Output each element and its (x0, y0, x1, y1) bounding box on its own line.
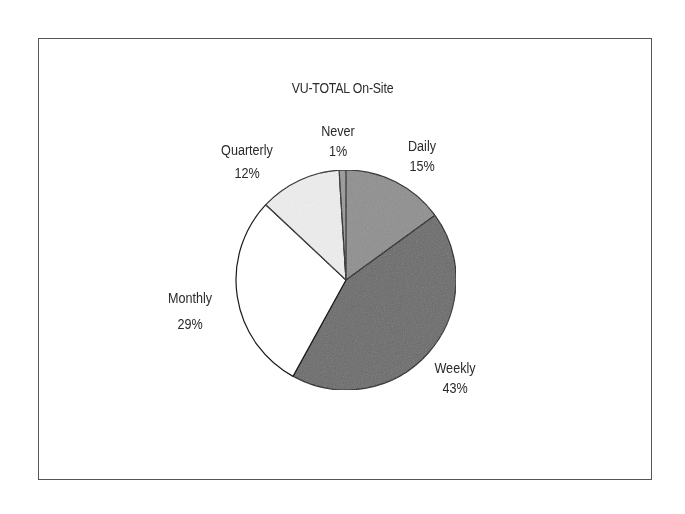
slice-label-monthly: Monthly 29% (145, 285, 235, 337)
slice-pct-quarterly: 12% (202, 162, 292, 185)
slice-pct-daily: 15% (377, 156, 467, 176)
pie-chart (0, 0, 685, 514)
slice-label-daily: Daily 15% (377, 136, 467, 176)
slice-label-weekly: Weekly 43% (410, 358, 500, 398)
slice-label-quarterly: Quarterly 12% (202, 139, 292, 185)
slice-name-daily: Daily (377, 136, 467, 156)
slice-label-never: Never 1% (293, 121, 383, 161)
slice-name-weekly: Weekly (410, 358, 500, 378)
slice-name-never: Never (293, 121, 383, 141)
slice-name-quarterly: Quarterly (202, 139, 292, 162)
slice-pct-monthly: 29% (145, 311, 235, 337)
slice-name-monthly: Monthly (145, 285, 235, 311)
slice-pct-never: 1% (293, 141, 383, 161)
slice-pct-weekly: 43% (410, 378, 500, 398)
